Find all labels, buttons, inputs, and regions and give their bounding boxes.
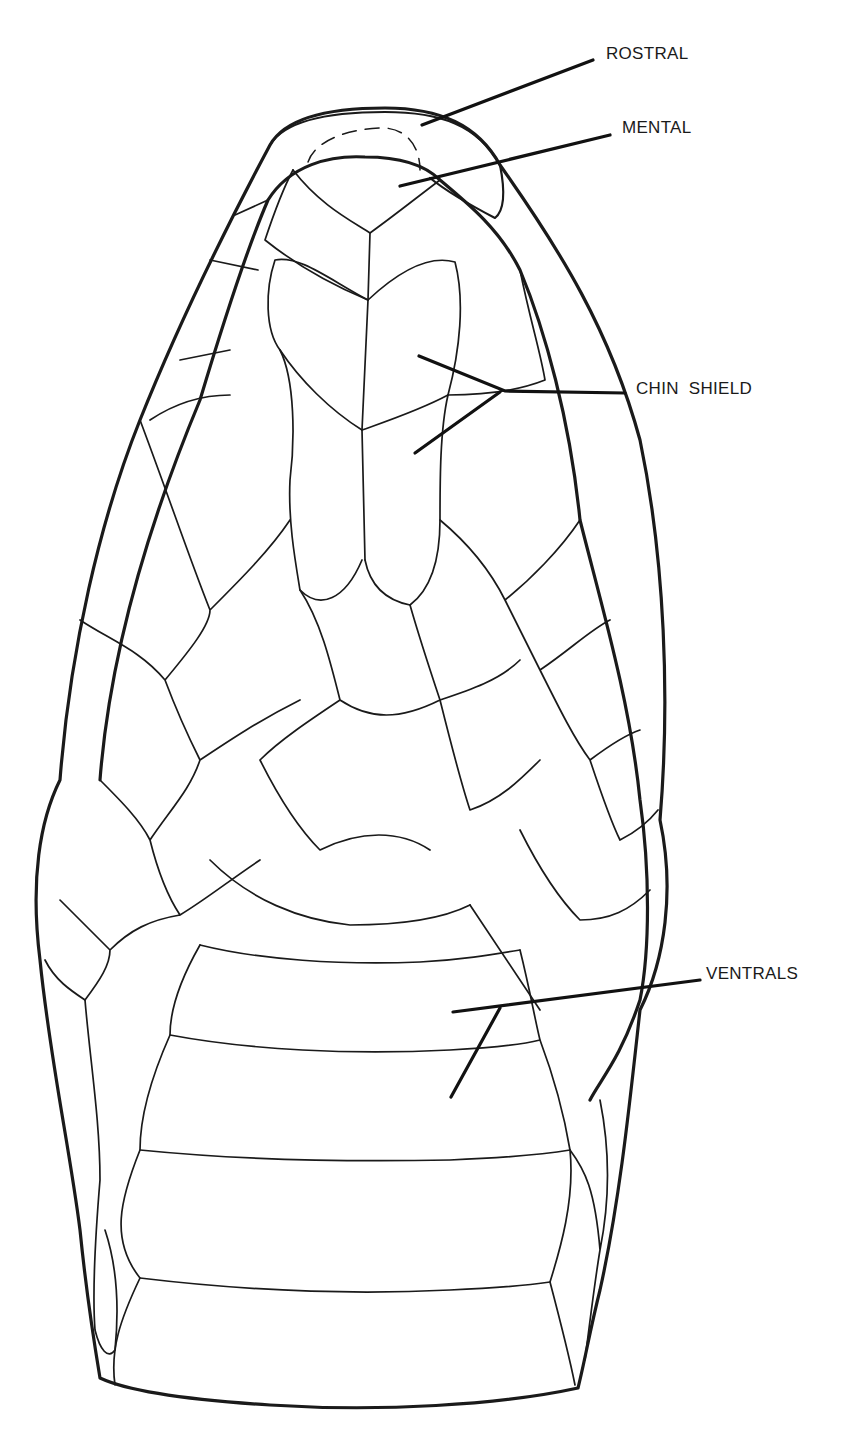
gular-scales-right (440, 270, 658, 1010)
leader-rostral (422, 60, 593, 125)
label-chin-shield: CHIN SHIELD (636, 379, 752, 399)
chin-shield-posterior-right (365, 395, 448, 605)
ventral-1 (200, 945, 520, 963)
lateral-scales-bottom-right (570, 1100, 608, 1360)
rostral-dashed-inner (308, 128, 420, 170)
lower-jaw-line (100, 157, 648, 1100)
gular-scales-center (210, 590, 540, 925)
leader-chin-shield-lower (415, 392, 500, 453)
leader-ventrals-upper (453, 980, 700, 1012)
snake-head-diagram (0, 0, 866, 1435)
chin-shield-posterior-left (280, 350, 362, 600)
label-ventrals: VENTRALS (706, 964, 798, 984)
ventral-3 (140, 1150, 570, 1161)
infralabials-left (150, 170, 368, 420)
label-mental: MENTAL (622, 118, 692, 138)
leader-ventrals-lower (451, 1008, 500, 1097)
ventral-4 (140, 1278, 550, 1292)
ventral-edges-right (520, 950, 575, 1385)
chin-shield-anterior-left (268, 259, 368, 430)
leader-mental (400, 135, 610, 186)
ventral-edges-left (114, 945, 200, 1385)
mental-scale (293, 170, 440, 233)
head-outer-outline (36, 108, 667, 1408)
label-rostral: ROSTRAL (606, 44, 688, 64)
midline (362, 233, 370, 560)
gular-scales-left (45, 420, 300, 1000)
